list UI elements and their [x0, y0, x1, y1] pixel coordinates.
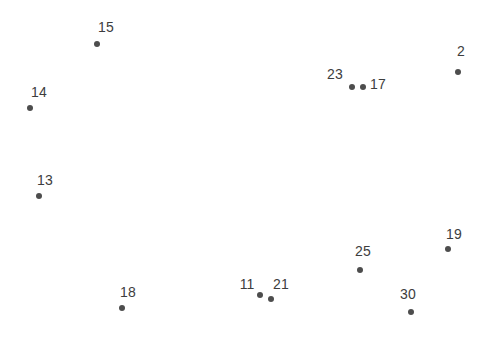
scatter-point: [36, 193, 42, 199]
scatter-point-label: 17: [370, 77, 386, 91]
scatter-point: [445, 246, 451, 252]
scatter-point-label: 13: [37, 173, 53, 187]
scatter-point: [27, 105, 33, 111]
scatter-point-label: 14: [31, 85, 47, 99]
scatter-point: [257, 292, 263, 298]
scatter-point: [268, 296, 274, 302]
scatter-plot-canvas: 15141323172192530112118: [0, 0, 492, 363]
scatter-point: [455, 69, 461, 75]
scatter-point: [360, 84, 366, 90]
scatter-point: [349, 84, 355, 90]
scatter-point-label: 23: [327, 67, 343, 81]
scatter-point-label: 15: [98, 20, 114, 34]
scatter-point-label: 11: [240, 277, 255, 291]
scatter-point: [119, 305, 125, 311]
scatter-point: [408, 309, 414, 315]
scatter-point: [94, 41, 100, 47]
scatter-point-label: 2: [457, 44, 465, 58]
scatter-point-label: 21: [273, 277, 289, 291]
scatter-point: [357, 267, 363, 273]
scatter-point-label: 19: [446, 227, 462, 241]
scatter-point-label: 25: [355, 244, 371, 258]
scatter-point-label: 30: [400, 287, 416, 301]
scatter-point-label: 18: [120, 285, 136, 299]
